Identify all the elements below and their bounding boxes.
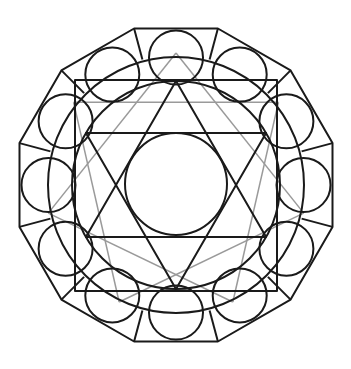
- connector-line: [20, 219, 51, 227]
- connector-line: [210, 29, 218, 60]
- square: [75, 80, 277, 291]
- connector-line: [134, 29, 142, 60]
- geometric-diagram: [0, 0, 351, 369]
- connector-line: [210, 311, 218, 342]
- connector-line: [302, 219, 333, 227]
- hexagram-circle: [72, 81, 280, 289]
- main-layer: [20, 29, 333, 342]
- inner-circle: [125, 133, 227, 235]
- connector-line: [268, 70, 291, 93]
- hexagram-triangle-up: [86, 81, 266, 237]
- connector-line: [302, 143, 333, 151]
- connector-line: [20, 143, 51, 151]
- connector-line: [61, 277, 84, 300]
- connector-line: [61, 70, 84, 93]
- hexagram-triangle-down: [86, 133, 266, 289]
- connector-line: [134, 311, 142, 342]
- connector-line: [268, 277, 291, 300]
